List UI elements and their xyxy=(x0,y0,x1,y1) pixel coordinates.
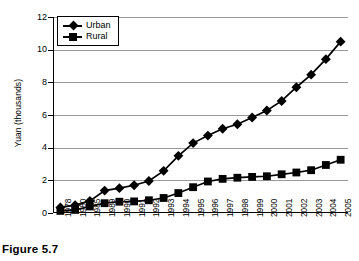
figure-5-7: Yuan (thousands) 024681012 1978198019851… xyxy=(0,0,359,261)
x-axis-tick-label: 1985 xyxy=(93,199,101,217)
x-axis-tick-label: 1993 xyxy=(167,199,175,217)
square-marker-icon xyxy=(63,31,82,42)
x-axis-tick-label: 2002 xyxy=(300,199,308,217)
x-axis-tick-label: 1995 xyxy=(197,199,205,217)
x-axis-tick-label: 1978 xyxy=(64,199,72,217)
y-axis-tick-label: 6 xyxy=(17,111,47,120)
figure-caption: Figure 5.7 xyxy=(2,243,58,255)
gridline xyxy=(54,115,348,116)
x-axis-tick-label: 2001 xyxy=(285,199,293,217)
x-axis-tick-label: 1992 xyxy=(152,199,160,217)
x-axis-tick-label: 1994 xyxy=(182,199,190,217)
x-axis-tick-label: 1999 xyxy=(256,199,264,217)
y-axis-tick-label: 0 xyxy=(17,209,47,218)
gridline xyxy=(54,50,348,51)
x-axis-tick-label: 1989 xyxy=(108,199,116,217)
x-axis-tick-label: 2004 xyxy=(329,199,337,217)
legend-item-urban[interactable]: Urban xyxy=(63,20,111,31)
y-axis-tick-label: 8 xyxy=(17,78,47,87)
y-axis-tick-label: 10 xyxy=(17,45,47,54)
x-axis-tick-label: 2003 xyxy=(315,199,323,217)
x-axis-tick-label: 1998 xyxy=(241,199,249,217)
x-axis-tick-label: 1991 xyxy=(138,199,146,217)
legend-label-urban: Urban xyxy=(86,21,111,30)
y-axis-tick xyxy=(48,213,53,214)
legend-label-rural: Rural xyxy=(86,32,108,41)
x-axis-tick-label: 1980 xyxy=(79,199,87,217)
y-axis-tick-label: 4 xyxy=(17,143,47,152)
y-axis-tick-label: 12 xyxy=(17,13,47,22)
diamond-marker-icon xyxy=(63,20,82,31)
gridline xyxy=(54,180,348,181)
gridline xyxy=(54,148,348,149)
x-axis-tick-label: 1997 xyxy=(226,199,234,217)
y-axis-tick-label: 2 xyxy=(17,176,47,185)
legend-item-rural[interactable]: Rural xyxy=(63,31,111,42)
x-axis-tick-label: 1996 xyxy=(211,199,219,217)
x-axis-tick-label: 2005 xyxy=(344,199,352,217)
gridline xyxy=(54,82,348,83)
plot-area xyxy=(53,17,348,213)
x-axis-tick-label: 2000 xyxy=(270,199,278,217)
x-axis-tick-label: 1990 xyxy=(123,199,131,217)
chart-legend: Urban Rural xyxy=(57,16,119,46)
